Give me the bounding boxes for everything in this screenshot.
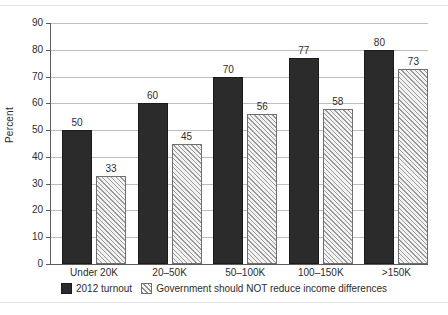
- bar-opinion[interactable]: 33: [96, 176, 126, 264]
- bar-group: 604520–50K: [126, 23, 202, 264]
- y-tick-label: 70: [32, 72, 43, 82]
- bar-group: 705650–100K: [201, 23, 277, 264]
- diagonal-hatch-swatch: [141, 283, 152, 294]
- bar-group: 7758100–150K: [277, 23, 353, 264]
- bar-value-label: 80: [374, 38, 385, 48]
- x-axis-category-label: 20–50K: [152, 268, 186, 278]
- bar-turnout[interactable]: 50: [62, 130, 92, 264]
- bar-turnout[interactable]: 60: [138, 103, 168, 264]
- y-tick-label: 10: [32, 232, 43, 242]
- x-axis-category-label: 50–100K: [225, 268, 265, 278]
- legend-item-label: 2012 turnout: [76, 284, 132, 294]
- y-tick-label: 80: [32, 45, 43, 55]
- y-tick-label: 90: [32, 18, 43, 28]
- plot-area: 0102030405060708090 5033Under 20K604520–…: [50, 23, 428, 264]
- bar-turnout[interactable]: 80: [364, 50, 394, 264]
- bar-value-label: 56: [257, 102, 268, 112]
- y-tick-mark: [46, 264, 50, 265]
- bar-value-label: 73: [408, 57, 419, 67]
- bar-group: 5033Under 20K: [50, 23, 126, 264]
- y-tick-label: 40: [32, 152, 43, 162]
- y-tick-label: 20: [32, 205, 43, 215]
- bar-opinion[interactable]: 45: [172, 144, 202, 265]
- bar-opinion[interactable]: 73: [398, 69, 428, 264]
- bar-value-label: 70: [223, 65, 234, 75]
- legend-item[interactable]: 2012 turnout: [61, 283, 132, 294]
- bar-value-label: 60: [147, 91, 158, 101]
- bar-group: 8073>150K: [352, 23, 428, 264]
- chart-legend: 2012 turnoutGovernment should NOT reduce…: [0, 283, 448, 294]
- bar-opinion[interactable]: 58: [323, 109, 353, 264]
- figure-bottom-rule: [0, 302, 448, 303]
- y-tick-label: 50: [32, 125, 43, 135]
- y-tick-label: 0: [37, 259, 43, 269]
- y-tick-label: 60: [32, 98, 43, 108]
- y-axis-title: Percent: [4, 107, 15, 143]
- bar-turnout[interactable]: 70: [213, 77, 243, 264]
- bar-value-label: 77: [298, 46, 309, 56]
- bar-value-label: 45: [181, 132, 192, 142]
- legend-item[interactable]: Government should NOT reduce income diff…: [141, 283, 387, 294]
- x-axis-category-label: >150K: [382, 268, 411, 278]
- bar-value-label: 50: [71, 118, 82, 128]
- legend-item-label: Government should NOT reduce income diff…: [156, 284, 387, 294]
- bar-chart-figure: Percent 0102030405060708090 5033Under 20…: [0, 0, 448, 315]
- bar-opinion[interactable]: 56: [247, 114, 277, 264]
- x-axis-category-label: 100–150K: [298, 268, 344, 278]
- bar-value-label: 58: [332, 97, 343, 107]
- bar-value-label: 33: [105, 164, 116, 174]
- figure-top-rule: [0, 5, 448, 6]
- bar-turnout[interactable]: 77: [289, 58, 319, 264]
- solid-dark-swatch: [61, 283, 72, 294]
- y-tick-label: 30: [32, 179, 43, 189]
- x-axis-category-label: Under 20K: [70, 268, 118, 278]
- x-axis-line: [50, 264, 428, 265]
